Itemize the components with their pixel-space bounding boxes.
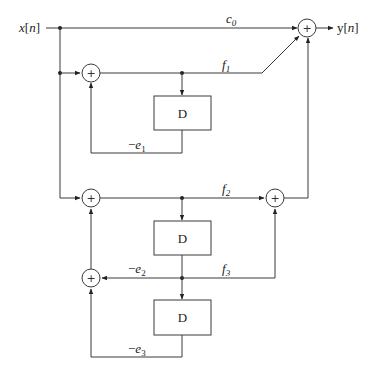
- coef-f2-label: f2: [222, 181, 231, 198]
- coef-c0-label: c0: [226, 11, 237, 28]
- adder-sum-3: +: [266, 189, 284, 207]
- svg-text:+: +: [86, 192, 95, 205]
- svg-text:D: D: [178, 231, 187, 246]
- delay-block-2: D: [154, 221, 211, 255]
- adder-sum-2: +: [82, 189, 100, 207]
- f1-path: [100, 36, 299, 73]
- delay-block-3: D: [154, 300, 211, 335]
- coef-f1-label: f1: [222, 57, 230, 74]
- svg-text:+: +: [270, 192, 279, 205]
- svg-text:D: D: [178, 106, 187, 121]
- svg-text:+: +: [86, 67, 95, 80]
- c0-path: [46, 26, 297, 30]
- coef-e1-label: −e1: [128, 137, 146, 154]
- adder-sum-4: +: [82, 269, 100, 287]
- coef-e3-label: −e3: [128, 341, 146, 358]
- adder-sum-1: +: [82, 64, 100, 82]
- stage2-to-output-path: [284, 38, 308, 198]
- coef-e2-label: −e2: [128, 261, 146, 278]
- svg-text:D: D: [178, 310, 187, 325]
- output-label: y[n]: [337, 20, 359, 35]
- svg-text:+: +: [86, 272, 95, 285]
- adder-output: +: [298, 19, 316, 37]
- input-label: x[n]: [18, 20, 40, 35]
- delay-block-1: D: [154, 96, 211, 130]
- coef-f3-label: f3: [222, 261, 231, 278]
- block-diagram: x[n] c0 + f1 D −e1 + y[n] + f2 D: [0, 0, 387, 377]
- svg-text:+: +: [302, 22, 311, 35]
